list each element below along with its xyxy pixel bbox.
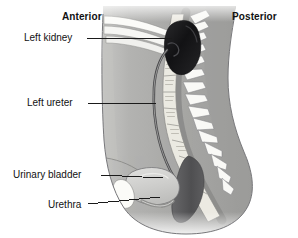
orientation-label-posterior: Posterior: [232, 12, 277, 22]
orientation-label-anterior: Anterior: [62, 12, 102, 22]
label-left-kidney: Left kidney: [24, 33, 72, 43]
label-urethra: Urethra: [48, 200, 81, 210]
label-urinary-bladder: Urinary bladder: [13, 170, 81, 180]
torso-group: [90, 0, 270, 238]
label-left-ureter: Left ureter: [27, 98, 73, 108]
anatomy-figure: Anterior Posterior Left kidney Left uret…: [0, 0, 298, 238]
